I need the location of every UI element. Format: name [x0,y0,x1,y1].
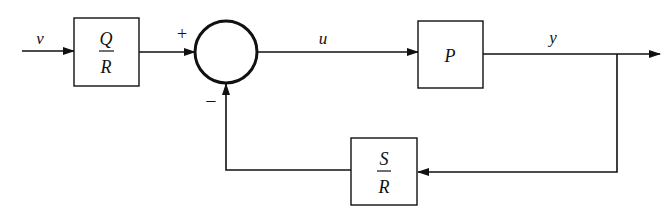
block-diagram: v Q R + u P y S R − [0,0,672,213]
summing-junction [195,21,257,83]
prefilter-denominator: R [100,57,112,77]
prefilter-numerator: Q [100,29,113,49]
plus-sign: + [177,24,187,44]
plant-label: P [444,46,456,66]
output-label-y: y [547,28,557,47]
input-label-v: v [36,29,44,48]
control-label-u: u [319,29,328,48]
minus-sign: − [205,90,216,112]
feedback-numerator: S [380,149,389,169]
feedback-denominator: R [378,177,390,197]
feedback-return-arrow [226,84,351,170]
